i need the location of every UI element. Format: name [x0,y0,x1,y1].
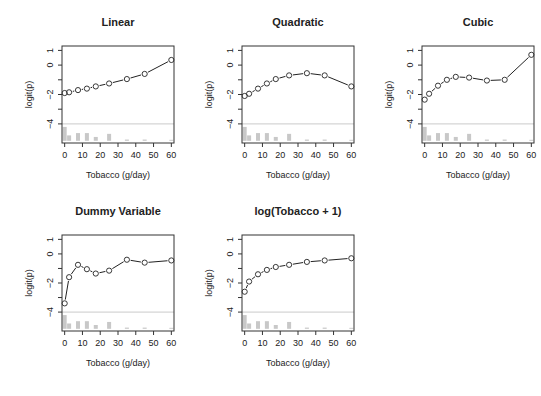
series-line [252,277,255,279]
data-point [93,271,98,276]
x-tick-label: 50 [329,150,339,160]
data-point [427,91,432,96]
y-axis-label: logit(p) [204,81,214,109]
y-tick-label: 1 [405,48,415,53]
plot-box [242,235,354,331]
y-tick-label: −4 [225,307,235,317]
series-line [261,85,263,86]
x-tick-label: 30 [113,338,123,348]
panel-title: Cubic [463,16,494,28]
x-axis-label: Tobacco (g/day) [266,358,330,368]
data-point [84,86,89,91]
x-axis-label: Tobacco (g/day) [446,170,510,180]
y-tick-label: 1 [45,237,55,242]
series-line [473,78,483,80]
y-axis-label: logit(p) [24,269,34,297]
y-tick-label: 0 [225,251,235,256]
y-axis-label: logit(p) [204,269,214,297]
x-tick-label: 60 [166,150,176,160]
x-tick-label: 30 [473,150,483,160]
data-point [169,258,174,263]
data-point [484,78,489,83]
histogram-bar [274,325,278,329]
y-tick-label: −2 [225,278,235,288]
histogram-bar [305,328,309,329]
series-line [441,82,444,84]
series-line [99,271,105,272]
histogram-bar [67,135,71,140]
data-point [273,76,278,81]
plot-box [62,46,174,143]
histogram-bar [445,133,449,141]
data-point [322,73,327,78]
panel-log-tobacco-1: log(Tobacco + 1)10−2−4logit(p)0102030405… [204,205,356,368]
series-line [112,262,123,269]
series-line [279,76,285,78]
histogram-bar [63,127,67,141]
y-tick-label: 0 [405,63,415,68]
data-point [529,52,534,57]
data-point [322,258,327,263]
x-tick-label: 50 [509,150,519,160]
histogram-bar [287,134,291,141]
data-point [124,76,129,81]
series-line [148,261,167,263]
histogram-bar [107,322,111,329]
data-point [75,87,80,92]
y-tick-label: −4 [45,119,55,129]
y-tick-label: −4 [405,119,415,129]
data-point [435,83,440,88]
histogram-bar [467,134,471,141]
data-point [304,71,309,76]
x-tick-label: 0 [242,150,247,160]
x-axis-label: Tobacco (g/day) [86,358,150,368]
histogram-bar [247,135,251,140]
histogram-bar [436,133,440,141]
data-point [62,301,67,306]
data-point [467,75,472,80]
series-line [261,272,263,273]
data-point [255,272,260,277]
panel-title: log(Tobacco + 1) [255,205,342,217]
series-line [90,271,92,272]
y-tick-label: 0 [45,63,55,68]
data-point [287,73,292,78]
histogram-bar [76,321,80,329]
x-tick-label: 40 [311,338,321,348]
data-point [287,262,292,267]
y-tick-label: −2 [45,89,55,99]
x-tick-label: 40 [491,150,501,160]
data-point [453,74,458,79]
x-tick-label: 10 [437,150,447,160]
x-tick-label: 20 [275,150,285,160]
histogram-bar [85,321,89,329]
histogram-bar [169,328,173,329]
panel-linear: Linear10−2−4logit(p)0102030405060Tobacco… [24,16,176,180]
histogram-bar [503,140,507,141]
data-point [304,259,309,264]
series-line [81,266,83,267]
data-point [247,91,252,96]
panel-cubic: Cubic10−2−4logit(p)0102030405060Tobacco … [384,16,536,180]
data-point [107,268,112,273]
histogram-bar [274,137,278,141]
plot-box [62,235,174,331]
x-tick-label: 20 [95,150,105,160]
x-tick-label: 10 [77,150,87,160]
histogram-bar [243,315,247,329]
x-tick-label: 10 [77,338,87,348]
series-line [113,80,123,83]
histogram-bar [63,315,67,329]
x-tick-label: 0 [242,338,247,348]
data-point [242,289,247,294]
histogram-bar [265,321,269,329]
histogram-bar [107,134,111,141]
series-line [328,77,348,85]
series-line [270,81,272,82]
histogram-bar [94,325,98,329]
y-tick-label: −2 [45,278,55,288]
data-point [422,97,427,102]
data-point [264,81,269,86]
histogram-bar [265,133,269,141]
histogram-bar [169,140,173,141]
